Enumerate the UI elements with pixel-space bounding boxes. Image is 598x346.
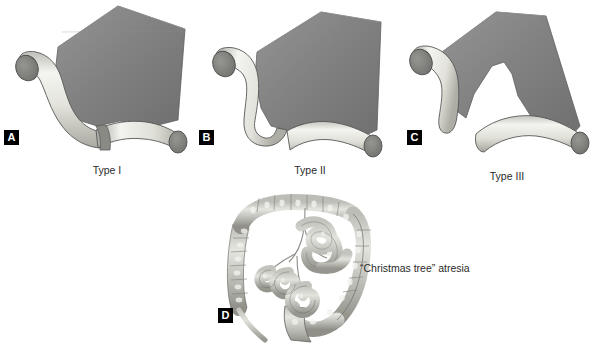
panel-b-illustration — [195, 0, 395, 160]
panel-type-ii: B Type II — [195, 0, 395, 160]
panel-caption-c: Type III — [462, 170, 552, 182]
christmas-tree-annotation: “Christmas tree” atresia — [360, 262, 470, 274]
mesentery-sheet-a — [55, 6, 186, 127]
panel-type-iii: C Type III — [400, 0, 598, 168]
panel-a-illustration — [0, 0, 195, 160]
distal-lumen-b — [364, 135, 382, 157]
apple-peel-coils-d — [259, 222, 347, 313]
panel-caption-b: Type II — [265, 164, 355, 176]
panel-label-c: C — [407, 130, 422, 145]
panel-caption-a: Type I — [62, 164, 152, 176]
panel-label-d: D — [218, 308, 233, 323]
panel-label-b: B — [199, 130, 214, 145]
distal-lumen-c — [571, 132, 589, 154]
panel-type-i: A Type I — [0, 0, 195, 160]
intestinal-atresia-figure: A Type I — [0, 0, 598, 346]
mesentery-sheet-b — [255, 12, 381, 140]
panel-c-illustration — [400, 0, 598, 168]
panel-label-a: A — [4, 130, 19, 145]
distal-lumen-a — [169, 131, 187, 153]
distal-tail-d — [239, 310, 265, 340]
